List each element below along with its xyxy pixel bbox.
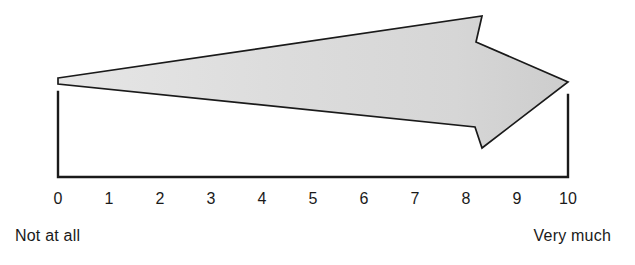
tick-label-4: 4	[257, 190, 266, 208]
anchor-label-low: Not at all	[15, 227, 80, 245]
tick-label-6: 6	[359, 190, 368, 208]
tick-label-5: 5	[308, 190, 317, 208]
anchor-label-high: Very much	[534, 227, 611, 245]
rating-scale-figure: 0 1 2 3 4 5 6 7 8 9 10 Not at all Very m…	[0, 0, 635, 265]
tick-label-9: 9	[512, 190, 521, 208]
tick-label-0: 0	[53, 190, 62, 208]
tick-label-10: 10	[559, 190, 577, 208]
tick-label-7: 7	[410, 190, 419, 208]
scale-graphic	[0, 0, 635, 265]
tick-label-2: 2	[155, 190, 164, 208]
tapered-arrow-shape	[58, 16, 568, 148]
tick-label-1: 1	[104, 190, 113, 208]
tick-label-8: 8	[461, 190, 470, 208]
tick-label-3: 3	[206, 190, 215, 208]
